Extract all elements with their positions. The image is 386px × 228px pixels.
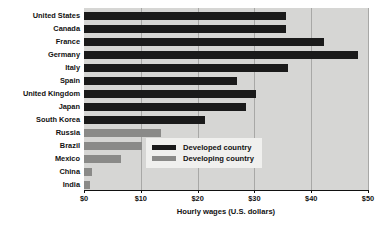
bar-mexico [84, 155, 121, 163]
category-label-south-korea: South Korea [0, 116, 80, 124]
bar-germany [84, 51, 358, 59]
x-tick-mark [141, 190, 142, 193]
chart-screenshot: United StatesCanadaFranceGermanyItalySpa… [0, 0, 386, 228]
x-tick-mark [198, 190, 199, 193]
x-tick-label: $20 [191, 194, 203, 203]
category-label-mexico: Mexico [0, 155, 80, 163]
bar-canada [84, 25, 286, 33]
category-label-russia: Russia [0, 129, 80, 137]
bar-row [84, 64, 368, 72]
category-label-japan: Japan [0, 103, 80, 111]
bar-russia [84, 129, 161, 137]
legend-label-developed: Developed country [183, 143, 251, 152]
bar-row [84, 103, 368, 111]
x-tick-label: $10 [135, 194, 147, 203]
bar-brazil [84, 142, 142, 150]
bar-row [84, 51, 368, 59]
bar-row [84, 38, 368, 46]
category-label-china: China [0, 168, 80, 176]
bar-united-states [84, 12, 286, 20]
category-label-spain: Spain [0, 77, 80, 85]
x-tick-mark [368, 190, 369, 193]
bar-row [84, 129, 368, 137]
category-label-italy: Italy [0, 64, 80, 72]
legend-item-developing: Developing country [152, 153, 254, 164]
gridline [311, 8, 312, 190]
gridline [368, 8, 369, 190]
x-tick-label: $30 [248, 194, 260, 203]
category-label-germany: Germany [0, 51, 80, 59]
category-label-france: France [0, 38, 80, 46]
bar-row [84, 90, 368, 98]
x-tick-label: $50 [362, 194, 374, 203]
category-label-canada: Canada [0, 25, 80, 33]
bar-row [84, 12, 368, 20]
bar-china [84, 168, 92, 176]
x-tick-mark [311, 190, 312, 193]
category-label-united-states: United States [0, 12, 80, 20]
bar-south-korea [84, 116, 205, 124]
bar-row [84, 116, 368, 124]
category-label-brazil: Brazil [0, 142, 80, 150]
bar-japan [84, 103, 246, 111]
gridline [141, 8, 142, 190]
legend-swatch-developed-icon [152, 145, 176, 150]
x-tick-mark [84, 190, 85, 193]
legend-swatch-developing-icon [152, 156, 176, 161]
legend-label-developing: Developing country [183, 154, 254, 163]
bar-spain [84, 77, 237, 85]
category-label-india: India [0, 181, 80, 189]
chart-legend: Developed country Developing country [146, 138, 262, 168]
bar-row [84, 25, 368, 33]
bar-france [84, 38, 324, 46]
x-tick-mark [254, 190, 255, 193]
bar-row [84, 168, 368, 176]
category-label-united-kingdom: United Kingdom [0, 90, 80, 98]
bar-row [84, 77, 368, 85]
x-axis-line [84, 190, 368, 191]
legend-item-developed: Developed country [152, 142, 254, 153]
bar-row [84, 181, 368, 189]
bar-india [84, 181, 90, 189]
bar-italy [84, 64, 288, 72]
x-tick-label: $40 [305, 194, 317, 203]
x-tick-label: $0 [80, 194, 88, 203]
bar-united-kingdom [84, 90, 256, 98]
x-axis-title: Hourly wages (U.S. dollars) [84, 207, 368, 216]
